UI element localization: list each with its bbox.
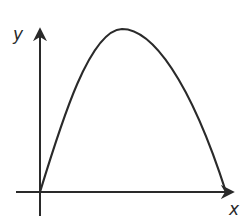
parabola-curve <box>40 29 226 192</box>
graph: y x <box>0 0 252 222</box>
x-axis-label: x <box>228 199 240 219</box>
y-axis-label: y <box>12 24 24 44</box>
